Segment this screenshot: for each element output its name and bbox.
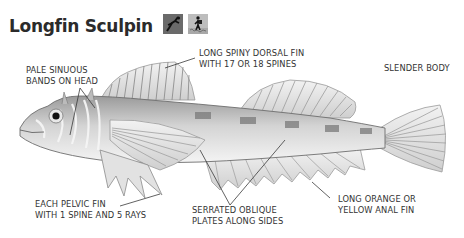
label-anal-fin: LONG ORANGE OR YELLOW ANAL FIN <box>338 194 416 216</box>
label-slender-body: SLENDER BODY <box>384 63 450 74</box>
spiny-dorsal-fin <box>100 62 195 100</box>
label-side-plates: SERRATED OBLIQUE PLATES ALONG SIDES <box>192 205 283 227</box>
label-pelvic-fin: EACH PELVIC FIN WITH 1 SPINE AND 5 RAYS <box>35 199 146 221</box>
caudal-fin <box>380 105 446 172</box>
label-head-bands: PALE SINUOUS BANDS ON HEAD <box>26 65 98 87</box>
label-dorsal-fin: LONG SPINY DORSAL FIN WITH 17 OR 18 SPIN… <box>199 48 304 70</box>
